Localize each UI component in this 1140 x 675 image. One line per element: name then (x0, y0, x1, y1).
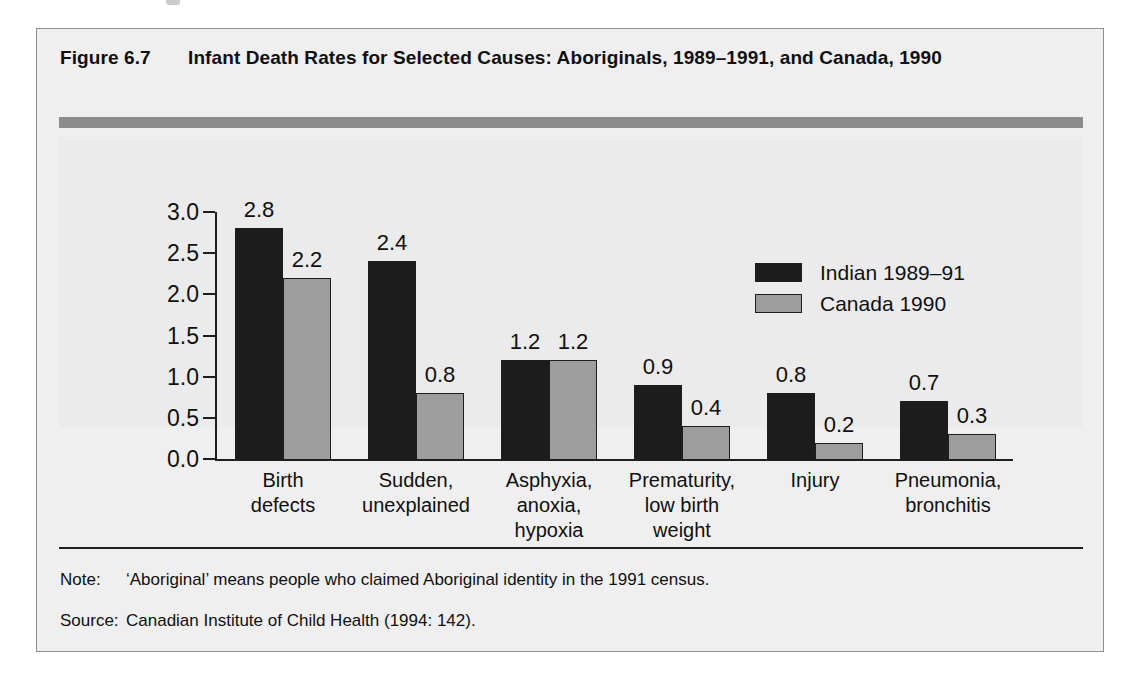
y-axis-tick-label: 3.0 (167, 201, 199, 224)
bar-indian (900, 401, 948, 459)
figure-number-label: Figure 6.7 (60, 45, 188, 71)
source-key: Source: (60, 610, 126, 632)
category-label-line: defects (251, 493, 315, 518)
bar-indian (235, 228, 283, 459)
bar-canada (948, 434, 996, 459)
x-axis-category-label: Prematurity,low birthweight (629, 468, 735, 543)
bar-value-label: 2.4 (377, 232, 408, 254)
bar-value-label: 0.3 (957, 405, 988, 427)
x-axis-line (215, 459, 1013, 461)
x-axis-category-label: Asphyxia,anoxia,hypoxia (506, 468, 593, 543)
x-axis-category-label: Birthdefects (251, 468, 315, 518)
bar-canada (283, 278, 331, 459)
bar-value-label: 1.2 (558, 331, 589, 353)
y-axis-line (215, 212, 217, 459)
bar-value-label: 1.2 (510, 331, 541, 353)
category-label-line: bronchitis (895, 493, 1002, 518)
figure-header: Figure 6.7 Infant Death Rates for Select… (60, 45, 1082, 71)
footer-divider-rule (59, 547, 1083, 549)
category-label-line: Pneumonia, (895, 468, 1002, 493)
bar-value-label: 0.8 (776, 364, 807, 386)
legend-swatch (755, 263, 802, 282)
figure-title: Infant Death Rates for Selected Causes: … (188, 45, 1082, 71)
header-divider-rule (59, 117, 1083, 128)
bar-value-label: 0.4 (691, 397, 722, 419)
figure-container: Figure 6.7 Infant Death Rates for Select… (36, 28, 1104, 652)
bar-value-label: 0.8 (425, 364, 456, 386)
category-label-line: Asphyxia, (506, 468, 593, 493)
category-label-line: weight (629, 518, 735, 543)
y-axis-tick-label: 1.5 (167, 324, 199, 347)
category-label-line: anoxia, (506, 493, 593, 518)
x-axis-category-label: Injury (791, 468, 840, 493)
bar-canada (416, 393, 464, 459)
bar-indian (634, 385, 682, 459)
bar-canada (549, 360, 597, 459)
bar-indian (501, 360, 549, 459)
y-axis-tick-label: 2.5 (167, 242, 199, 265)
chart-legend: Indian 1989–91Canada 1990 (755, 257, 965, 319)
bar-value-label: 2.8 (244, 199, 275, 221)
x-axis-category-label: Pneumonia,bronchitis (895, 468, 1002, 518)
y-axis-tick (203, 335, 215, 337)
bar-indian (767, 393, 815, 459)
chart-plot-area: 3.02.52.01.51.00.50.02.82.2Birthdefects2… (215, 212, 1013, 459)
y-axis-tick (203, 376, 215, 378)
legend-label: Canada 1990 (820, 292, 946, 316)
category-label-line: unexplained (362, 493, 470, 518)
legend-item: Indian 1989–91 (755, 257, 965, 288)
y-axis-tick-label: 1.0 (167, 365, 199, 388)
bar-value-label: 0.7 (909, 372, 940, 394)
category-label-line: Birth (251, 468, 315, 493)
note-text: ‘Aboriginal’ means people who claimed Ab… (126, 569, 709, 591)
category-label-line: hypoxia (506, 518, 593, 543)
category-label-line: low birth (629, 493, 735, 518)
scan-artifact (166, 0, 180, 5)
y-axis-tick (203, 252, 215, 254)
y-axis-tick (203, 417, 215, 419)
y-axis-tick (203, 211, 215, 213)
note-key: Note: (60, 569, 126, 591)
bar-canada (815, 443, 863, 459)
source-row: Source: Canadian Institute of Child Heal… (60, 610, 476, 632)
bar-canada (682, 426, 730, 459)
legend-item: Canada 1990 (755, 288, 965, 319)
bar-value-label: 2.2 (292, 249, 323, 271)
bar-indian (368, 261, 416, 459)
y-axis-tick (203, 458, 215, 460)
y-axis-tick-label: 0.5 (167, 406, 199, 429)
x-axis-category-label: Sudden,unexplained (362, 468, 470, 518)
y-axis-tick-label: 0.0 (167, 448, 199, 471)
bar-value-label: 0.9 (643, 356, 674, 378)
category-label-line: Sudden, (362, 468, 470, 493)
y-axis-tick (203, 293, 215, 295)
legend-swatch (755, 294, 802, 313)
source-text: Canadian Institute of Child Health (1994… (126, 610, 476, 632)
category-label-line: Prematurity, (629, 468, 735, 493)
category-label-line: Injury (791, 468, 840, 493)
note-row: Note: ‘Aboriginal’ means people who clai… (60, 569, 709, 591)
bar-value-label: 0.2 (824, 414, 855, 436)
y-axis-tick-label: 2.0 (167, 283, 199, 306)
legend-label: Indian 1989–91 (820, 261, 965, 285)
